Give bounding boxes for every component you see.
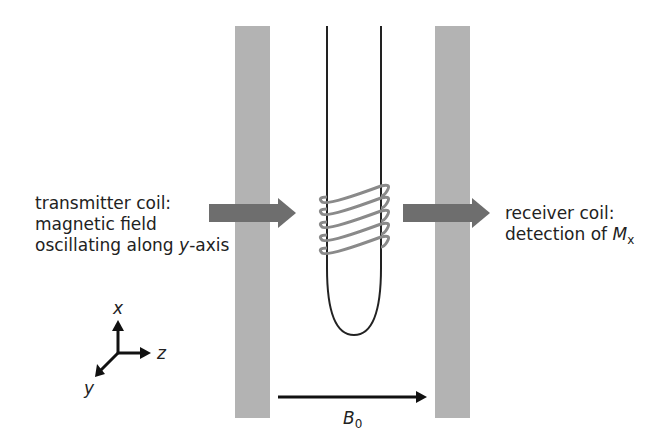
transmitter-line3: oscillating along y-axis [35,235,229,256]
rf-coil-icon [320,185,388,253]
transmitter-line2: magnetic field [35,214,229,235]
axis-label-z: z [157,343,166,364]
axis-label-y: y [84,378,94,399]
transmitter-line1: transmitter coil: [35,193,229,214]
receiver-label: receiver coil: detection of Mx [505,203,634,251]
transmitter-label: transmitter coil: magnetic field oscilla… [35,193,229,256]
b0-label: B0 [343,408,362,435]
axis-label-x: x [113,298,123,319]
receiver-line1: receiver coil: [505,203,634,224]
sample-tube [327,26,381,335]
receiver-line2: detection of Mx [505,224,634,251]
coordinate-axes-icon [95,320,151,377]
